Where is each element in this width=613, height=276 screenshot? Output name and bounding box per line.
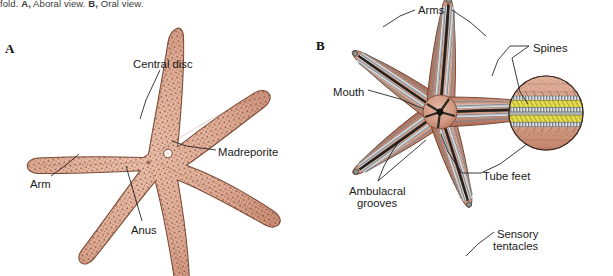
panel-letter-b: B bbox=[316, 38, 325, 54]
oral-arm-lower bbox=[426, 0, 464, 113]
magnified-inset bbox=[509, 76, 583, 150]
leader-ambulacral-1 bbox=[378, 140, 400, 181]
label-ambulacral-grooves-line1: Ambulacral bbox=[349, 185, 406, 198]
tube-feet-band-lower bbox=[509, 115, 583, 122]
label-arms: Arms bbox=[418, 4, 444, 17]
caption-b-text: Oral view. bbox=[98, 0, 143, 9]
label-anus: Anus bbox=[131, 224, 157, 237]
leader-madreporite bbox=[172, 141, 216, 150]
caption-a-tag: A, bbox=[21, 0, 31, 9]
starfish-oral bbox=[344, 0, 583, 256]
leader-spines-upper bbox=[492, 46, 529, 76]
leader-anus bbox=[126, 166, 142, 221]
leader-central-disc bbox=[140, 70, 160, 119]
panel-letter-a: A bbox=[5, 41, 14, 57]
leader-arm bbox=[51, 154, 79, 176]
caption-b-tag: B, bbox=[88, 0, 98, 9]
label-central-disc: Central disc bbox=[133, 58, 193, 71]
oral-arm-upper-right bbox=[344, 42, 447, 123]
leader-mouth bbox=[368, 90, 424, 109]
leader-tube-feet-a bbox=[441, 134, 481, 173]
leader-arms-left bbox=[383, 10, 415, 27]
leaders-panel-b bbox=[368, 10, 529, 256]
oral-disc-stipple bbox=[423, 95, 457, 129]
caption-a-text: Aboral view. bbox=[31, 0, 88, 9]
oral-arm-left bbox=[428, 108, 484, 211]
label-arm: Arm bbox=[30, 178, 51, 191]
label-ambulacral-grooves-line2: grooves bbox=[357, 197, 397, 210]
label-spines: Spines bbox=[533, 42, 568, 55]
madreporite-marker bbox=[163, 148, 173, 158]
leader-ambulacral-2 bbox=[378, 140, 426, 181]
oral-central-disc bbox=[423, 95, 457, 129]
oral-arm-right bbox=[439, 93, 557, 127]
figure-starfish-anatomy: fold. A, Aboral view. B, Oral view. A B bbox=[0, 0, 613, 276]
leaders-panel-a bbox=[51, 70, 216, 221]
mouth-structure bbox=[425, 99, 455, 128]
anus-marker bbox=[146, 160, 151, 165]
label-sensory-tentacles-line1: Sensory bbox=[497, 228, 538, 241]
caption-prefix: fold. bbox=[0, 0, 21, 9]
leader-spines-lower bbox=[512, 46, 529, 104]
label-sensory-tentacles-line2: tentacles bbox=[493, 240, 538, 253]
tube-feet-band-upper bbox=[509, 100, 583, 107]
label-tube-feet: Tube feet bbox=[483, 170, 530, 183]
leader-tube-feet-b bbox=[481, 144, 527, 173]
magnified-contents bbox=[509, 76, 583, 150]
label-madreporite: Madreporite bbox=[218, 146, 278, 159]
oral-arm-upper-left bbox=[346, 101, 447, 185]
label-mouth: Mouth bbox=[333, 86, 364, 99]
leader-sensory-tentacles bbox=[466, 232, 494, 256]
madreporite-inner bbox=[165, 151, 170, 156]
figure-caption: fold. A, Aboral view. B, Oral view. bbox=[0, 0, 143, 9]
leader-arms-right bbox=[452, 10, 486, 36]
